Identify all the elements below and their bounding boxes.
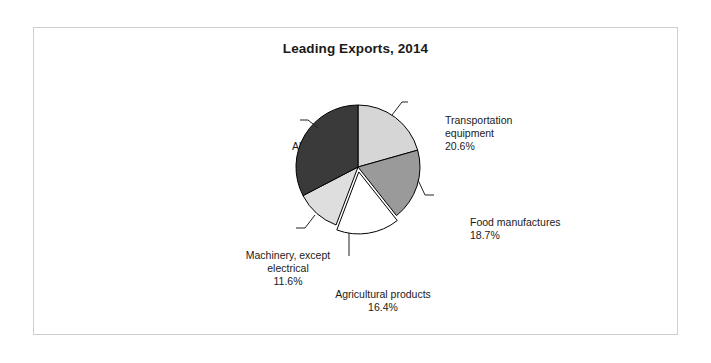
leader-line-transportation-equipment: [392, 102, 408, 115]
leader-line-food-manufactures: [418, 180, 434, 195]
leader-line-machinery-except-electrical: [296, 215, 315, 228]
pie-chart: [0, 0, 711, 363]
pie-slice-group: [296, 105, 420, 234]
